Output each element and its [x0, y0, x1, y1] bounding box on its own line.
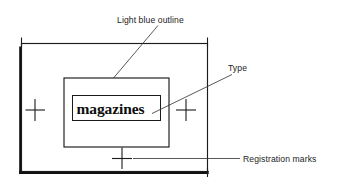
annotation-label-registration-marks: Registration marks — [243, 154, 316, 164]
diagram-canvas: magazines Light blue outline Type Regist… — [0, 0, 339, 186]
specimen-text: magazines — [77, 100, 145, 117]
diagram-svg: magazines Light blue outline Type Regist… — [0, 0, 339, 186]
annotation-label-light-blue-outline: Light blue outline — [117, 15, 184, 25]
type-box-group: magazines — [73, 96, 161, 121]
annotation-label-type: Type — [228, 63, 247, 73]
